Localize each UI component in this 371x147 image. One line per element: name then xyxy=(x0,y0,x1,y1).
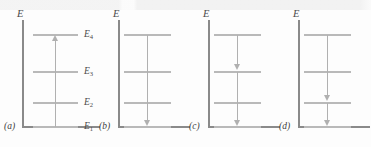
level-label-e2-text: E xyxy=(84,97,90,107)
level-label-e1-sub: 1 xyxy=(90,125,93,132)
axis-label-a: E xyxy=(17,8,23,19)
energy-axis-a xyxy=(22,20,24,128)
transition-arrow-shaft-d1 xyxy=(327,35,328,96)
level-label-e3-text: E xyxy=(84,66,90,76)
level-label-e2: E2 xyxy=(84,97,93,107)
transition-arrow-shaft-c1 xyxy=(237,35,238,65)
panel-caption-d: (d) xyxy=(279,121,290,131)
energy-level-figure: E E4 E3 E2 E1 (a) E (b) xyxy=(0,0,371,147)
axis-label-c: E xyxy=(203,8,209,19)
level-label-e2-sub: 2 xyxy=(90,101,93,108)
energy-axis-c xyxy=(208,20,210,128)
level-label-e1-text: E xyxy=(84,121,90,131)
level-label-e4-text: E xyxy=(84,29,90,39)
transition-arrow-head-d2 xyxy=(324,120,330,126)
level-line-e1-d xyxy=(304,126,351,128)
transition-arrow-head-d1 xyxy=(324,95,330,101)
transition-arrow-shaft-d2 xyxy=(327,103,328,121)
level-line-e1-c xyxy=(214,126,261,128)
level-label-e4-sub: 4 xyxy=(90,33,93,40)
transition-arrow-shaft-b1 xyxy=(147,35,148,121)
panel-caption-a: (a) xyxy=(4,121,15,131)
panel-caption-b: (b) xyxy=(99,121,110,131)
level-label-e4: E4 xyxy=(84,29,93,39)
axis-label-d: E xyxy=(293,8,299,19)
axis-label-b: E xyxy=(113,8,119,19)
panel-caption-c: (c) xyxy=(189,121,200,131)
level-line-e1-b xyxy=(124,126,171,128)
panel-b: E (b) xyxy=(96,0,188,147)
level-label-e3: E3 xyxy=(84,66,93,76)
panel-a: E E4 E3 E2 E1 (a) xyxy=(0,0,100,147)
panel-c: E (c) xyxy=(186,0,278,147)
panel-d: E (d) xyxy=(276,0,371,147)
transition-arrow-shaft-c2 xyxy=(237,72,238,121)
transition-arrow-head-a1 xyxy=(52,35,58,41)
transition-arrow-head-b1 xyxy=(144,120,150,126)
level-label-e3-sub: 3 xyxy=(90,70,93,77)
transition-arrow-head-c2 xyxy=(234,120,240,126)
energy-axis-b xyxy=(118,20,120,128)
level-label-e1: E1 xyxy=(84,121,93,131)
transition-arrow-shaft-a1 xyxy=(55,40,56,127)
energy-axis-d xyxy=(298,20,300,128)
transition-arrow-head-c1 xyxy=(234,64,240,70)
